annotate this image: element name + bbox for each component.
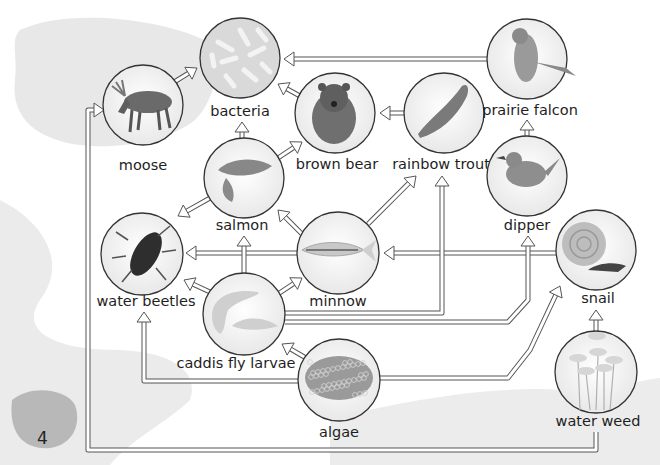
arrow-brown-bear-to-bacteria (278, 83, 300, 96)
algae-icon (305, 356, 373, 400)
node-brown-bear[interactable]: brown bear (295, 73, 378, 172)
node-prairie-falcon[interactable]: prairie falcon (482, 19, 578, 118)
node-dipper[interactable]: dipper (487, 136, 567, 233)
label-moose: moose (119, 157, 167, 173)
arrowhead (235, 122, 249, 132)
node-rainbow-trout[interactable]: rainbow trout (392, 73, 490, 172)
arrowhead (520, 120, 534, 130)
label-brown-bear: brown bear (296, 156, 378, 172)
arrowhead (284, 52, 294, 66)
node-caddis-fly-larvae[interactable]: caddis fly larvae (176, 273, 295, 371)
arrowhead (435, 176, 449, 186)
label-water-beetles: water beetles (96, 293, 195, 309)
label-salmon: salmon (216, 217, 269, 233)
label-water-weed: water weed (556, 413, 641, 429)
arrowhead (589, 310, 603, 320)
node-snail[interactable]: snail (556, 210, 636, 306)
arrowhead (186, 246, 196, 260)
node-moose[interactable]: moose (103, 65, 183, 173)
node-bacteria[interactable]: bacteria (200, 18, 280, 119)
node-water-weed[interactable]: water weed (555, 331, 640, 429)
label-algae: algae (319, 424, 359, 440)
label-bacteria: bacteria (210, 103, 270, 119)
label-minnow: minnow (309, 293, 366, 309)
arrowhead (521, 236, 535, 246)
label-snail: snail (581, 290, 615, 306)
arrow-caddis-fly-larvae-to-water-beetles (184, 278, 210, 292)
arrowhead (237, 236, 251, 246)
label-caddis-fly-larvae: caddis fly larvae (176, 355, 295, 371)
node-minnow[interactable]: minnow (297, 212, 379, 309)
arrow-salmon-to-water-beetles (178, 198, 210, 217)
label-prairie-falcon: prairie falcon (482, 102, 578, 118)
arrow-rainbow-trout-to-brown-bear (380, 106, 404, 120)
node-water-beetles[interactable]: water beetles (96, 213, 195, 309)
arrowhead (380, 106, 390, 120)
food-web-diagram: moose bacteria brown bear (0, 0, 660, 465)
page-number: 4 (37, 428, 48, 448)
arrow-dipper-to-prairie-falcon (520, 120, 534, 136)
arrow-minnow-to-salmon (278, 210, 302, 234)
arrow-salmon-to-bacteria (235, 122, 249, 138)
arrow-algae-to-snail (380, 286, 562, 378)
label-dipper: dipper (504, 217, 551, 233)
arrow-water-weed-to-snail (589, 310, 603, 331)
arrow-prairie-falcon-to-bacteria (284, 52, 487, 66)
node-salmon[interactable]: salmon (204, 138, 284, 233)
arrowhead (137, 312, 151, 322)
label-rainbow-trout: rainbow trout (392, 156, 490, 172)
arrowhead (384, 246, 394, 260)
arrow-minnow-to-rainbow-trout (368, 176, 416, 224)
arrow-caddis-fly-larvae-to-minnow (278, 278, 302, 294)
